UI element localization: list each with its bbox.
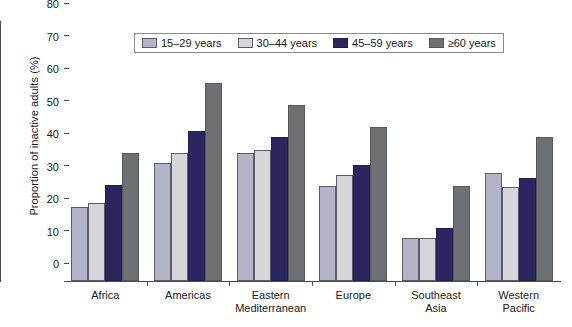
bar[interactable] [436,228,453,281]
legend-label: 15–29 years [161,37,222,49]
bar-set [229,21,312,281]
bar[interactable] [154,163,171,281]
plot-area: 01020304050607080 [64,21,560,281]
y-axis-tick: 40 [47,124,64,142]
x-axis-separator [312,281,313,286]
bar[interactable] [288,105,305,281]
x-axis-label: Western Pacific [477,289,560,315]
x-axis-label: Americas [147,289,230,302]
legend-item[interactable]: 45–59 years [333,37,413,49]
bar-group [312,21,395,281]
bar[interactable] [353,165,370,281]
y-axis-tick-label: 80 [47,0,64,10]
y-axis-tick-label: 0 [53,258,64,270]
legend-label: 30–44 years [257,37,318,49]
bar[interactable] [502,187,519,281]
bar[interactable] [519,178,536,281]
bar-set [312,21,395,281]
legend-swatch-icon [429,38,444,48]
y-axis-tick-label: 20 [47,193,64,205]
bar[interactable] [71,207,88,281]
y-axis-tick: 70 [47,27,64,45]
legend-item[interactable]: ≥60 years [429,37,496,49]
bar-set [395,21,478,281]
bar[interactable] [171,153,188,281]
bar[interactable] [122,153,139,281]
bar[interactable] [336,175,353,281]
x-axis-label: Africa [64,289,147,302]
bar-set [147,21,230,281]
y-axis-tick-label: 60 [47,63,64,75]
y-axis-tick-label: 50 [47,96,64,108]
bar[interactable] [536,137,553,281]
y-axis-tick: 30 [47,157,64,175]
bar[interactable] [237,153,254,281]
bar[interactable] [254,150,271,281]
y-axis-tick: 0 [53,254,64,272]
y-axis-title: Proportion of inactive adults (%) [28,6,40,266]
bar[interactable] [370,127,387,281]
bar[interactable] [419,238,436,281]
y-axis-tick: 80 [47,0,64,12]
x-axis-label: Europe [312,289,395,302]
y-axis-line [0,21,1,282]
bar[interactable] [402,238,419,281]
bar-group [147,21,230,281]
y-axis-tick-label: 70 [47,31,64,43]
x-axis-separator [477,281,478,286]
legend-item[interactable]: 15–29 years [142,37,222,49]
bar-group [64,21,147,281]
y-axis-tick: 10 [47,222,64,240]
bar-group [477,21,560,281]
y-axis-tick-label: 40 [47,128,64,140]
legend-label: ≥60 years [448,37,496,49]
legend: 15–29 years30–44 years45–59 years≥60 yea… [134,33,504,53]
y-axis-tick: 60 [47,59,64,77]
x-axis-label: Eastern Mediterranean [229,289,312,315]
x-axis-separator [147,281,148,286]
bar-group [395,21,478,281]
legend-swatch-icon [333,38,348,48]
x-axis-label: Southeast Asia [395,289,478,315]
bar[interactable] [271,137,288,281]
bar-set [477,21,560,281]
bar[interactable] [88,203,105,281]
bar[interactable] [188,131,205,281]
bar-set [64,21,147,281]
bar[interactable] [105,185,122,281]
bar[interactable] [453,186,470,281]
bar-group [229,21,312,281]
legend-label: 45–59 years [352,37,413,49]
y-axis-tick: 20 [47,189,64,207]
bar[interactable] [205,83,222,281]
x-axis-separator [229,281,230,286]
bar[interactable] [485,173,502,281]
bar-chart: Proportion of inactive adults (%) 010203… [0,0,572,327]
y-axis-tick: 50 [47,92,64,110]
y-axis-tick-mark [64,3,69,4]
legend-item[interactable]: 30–44 years [238,37,318,49]
legend-swatch-icon [142,38,157,48]
legend-swatch-icon [238,38,253,48]
y-axis-tick-label: 30 [47,161,64,173]
bar[interactable] [319,186,336,281]
x-axis-separator [395,281,396,286]
y-axis-tick-label: 10 [47,226,64,238]
